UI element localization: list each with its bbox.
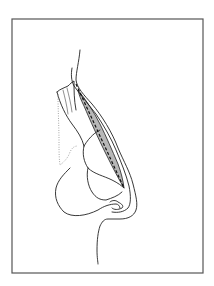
alar-lobule	[55, 168, 120, 216]
upper-lateral-cartilage	[57, 92, 84, 146]
nostril	[110, 201, 123, 210]
nasal-bone-hatching	[63, 88, 72, 114]
dashed-dorsal-line	[76, 84, 124, 188]
skin-profile-outer	[76, 50, 137, 264]
nose-diagram	[0, 0, 214, 286]
